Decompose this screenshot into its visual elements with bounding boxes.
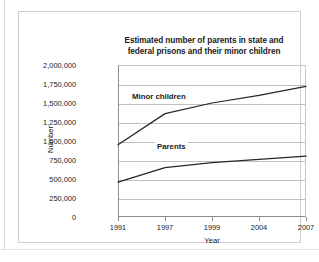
chart-title: Estimated number of parents in state and… [89,35,319,57]
y-axis-tick-label: 1,750,000 [14,80,76,89]
figure-frame: Estimated number of parents in state and… [18,11,301,243]
series-layer [118,65,306,217]
page-bottom-rule [0,249,319,250]
series-label-minor-children: Minor children [130,92,188,101]
y-axis-tick-label: 250,000 [14,194,76,203]
y-axis-tick-label: 750,000 [14,156,76,165]
x-axis-tick-mark [212,217,213,221]
x-axis-tick-mark [118,217,119,221]
y-axis-tick-label: 1,500,000 [14,99,76,108]
screenshot-page: Estimated number of parents in state and… [0,0,319,262]
x-axis-tick-mark [306,217,307,221]
y-axis-tick-label: 2,000,000 [14,61,76,70]
y-axis-tick-label: 500,000 [14,175,76,184]
page-left-rule [4,0,5,250]
x-axis-tick-mark [259,217,260,221]
x-axis-tick-label: 1999 [192,223,232,232]
y-axis-tick-label: 0 [14,213,76,222]
chart-title-line-1: Estimated number of parents in state and [89,35,319,46]
x-axis-tick-label: 2007 [286,223,319,232]
y-axis-tick-label: 1,000,000 [14,137,76,146]
x-axis-tick-label: 2004 [239,223,279,232]
y-axis-tick-label: 1,250,000 [14,118,76,127]
series-label-parents: Parents [155,142,188,151]
chart-title-line-2: federal prisons and their minor children [89,46,319,57]
x-axis-tick-label: 1991 [98,223,138,232]
x-axis-tick-mark [165,217,166,221]
series-line-parents [118,156,306,182]
x-axis-tick-label: 1997 [145,223,185,232]
x-axis-title: Year [118,236,306,245]
